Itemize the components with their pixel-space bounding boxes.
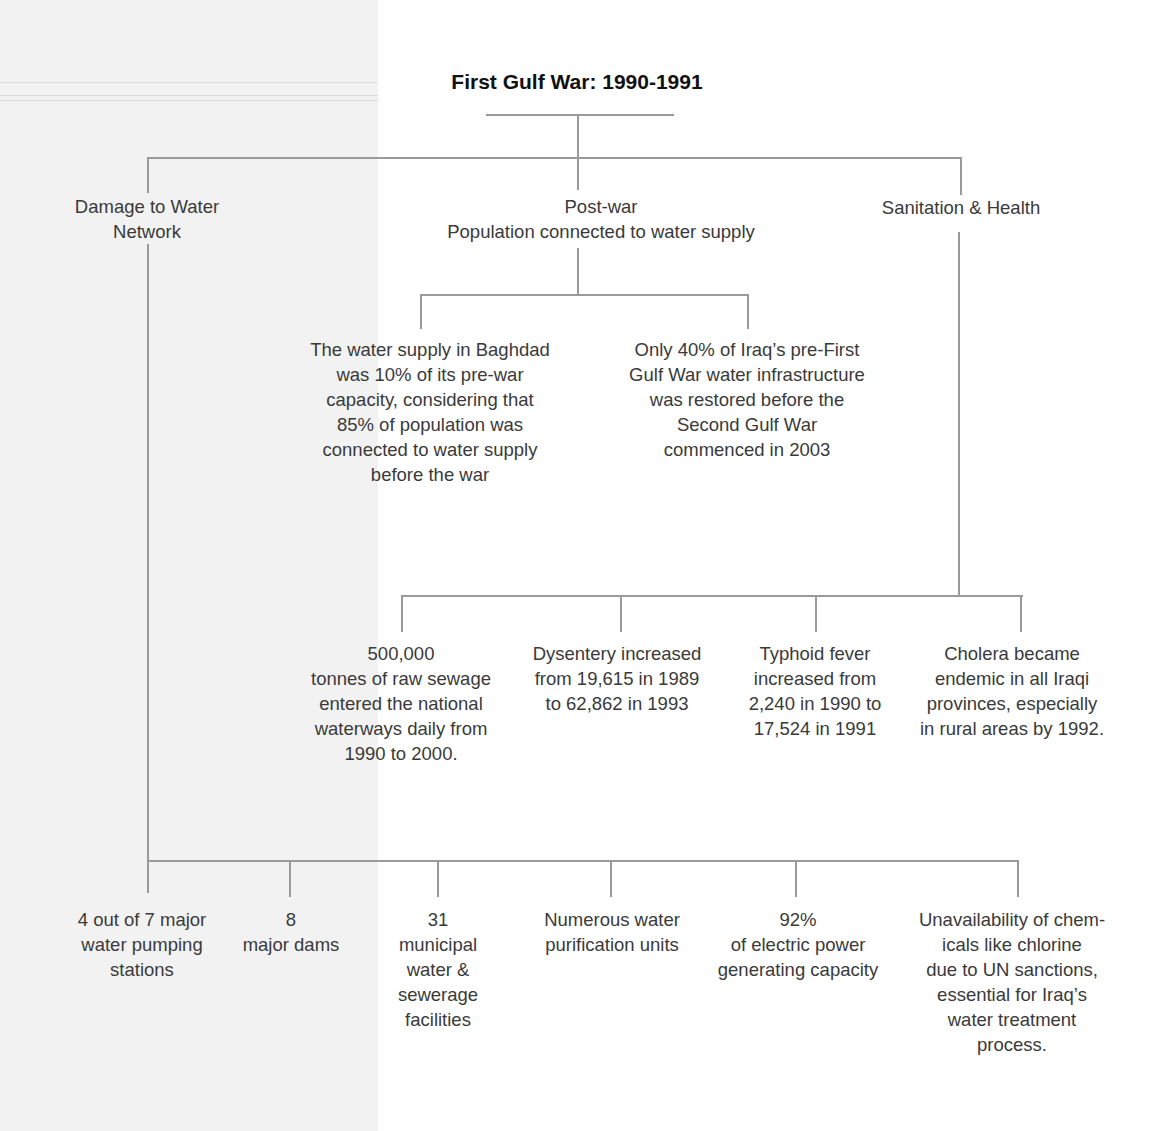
connector-sanitation-item: [1020, 595, 1022, 632]
connector-damage-item: [437, 860, 439, 897]
connector-damage-item: [147, 860, 149, 893]
damage-item-electric-power: 92% of electric power generating capacit…: [700, 907, 896, 982]
connector-sanitation-bar: [401, 595, 1023, 597]
connector-sanitation-item: [815, 595, 817, 632]
damage-item-dams: 8 major dams: [225, 907, 357, 957]
damage-item-municipal-facilities: 31 municipal water & sewerage facilities: [375, 907, 501, 1032]
damage-item-purification-units: Numerous water purification units: [524, 907, 700, 957]
connector-damage-item: [1017, 860, 1019, 897]
connector-damage: [147, 244, 149, 862]
sanitation-item-cholera: Cholera became endemic in all Iraqi prov…: [902, 641, 1122, 741]
connector-sanitation-item: [401, 595, 403, 632]
connector-level1: [147, 157, 962, 159]
background-rule: [0, 95, 378, 96]
sanitation-item-typhoid: Typhoid fever increased from 2,240 in 19…: [732, 641, 898, 741]
damage-item-chemicals-sanctions: Unavailability of chem- icals like chlor…: [898, 907, 1126, 1057]
connector-sanitation-top: [960, 157, 962, 195]
connector-damage-item: [610, 860, 612, 897]
sanitation-item-sewage: 500,000 tonnes of raw sewage entered the…: [291, 641, 511, 766]
connector-postwar-item: [747, 294, 749, 329]
damage-item-pumping-stations: 4 out of 7 major water pumping stations: [62, 907, 222, 982]
connector-sanitation-item: [620, 595, 622, 632]
connector-damage-top: [147, 157, 149, 193]
connector-damage-bar: [147, 860, 1019, 862]
branch-post-war: Post-war Population connected to water s…: [400, 194, 802, 244]
postwar-item-baghdad: The water supply in Baghdad was 10% of i…: [280, 337, 580, 487]
postwar-item-infrastructure: Only 40% of Iraq’s pre-First Gulf War wa…: [594, 337, 900, 462]
connector-sanitation: [958, 232, 960, 596]
connector-root: [577, 114, 579, 190]
connector-damage-item: [795, 860, 797, 897]
connector-postwar-bar: [420, 294, 749, 296]
background-rule: [0, 100, 378, 101]
sanitation-item-dysentery: Dysentery increased from 19,615 in 1989 …: [512, 641, 722, 716]
background-rule: [0, 82, 378, 83]
branch-damage-to-water-network: Damage to Water Network: [47, 194, 247, 244]
branch-sanitation-health: Sanitation & Health: [840, 195, 1082, 220]
connector-postwar-item: [420, 294, 422, 329]
diagram-title: First Gulf War: 1990-1991: [400, 70, 754, 94]
connector-postwar: [577, 248, 579, 295]
connector-damage-item: [289, 860, 291, 897]
title-underline: [486, 114, 674, 116]
